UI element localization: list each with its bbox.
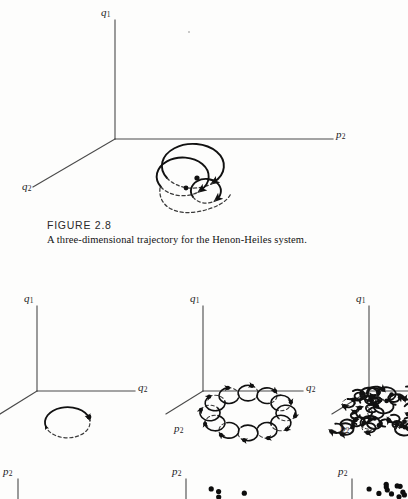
trajectory-node-dot	[342, 404, 347, 409]
trajectory-loop	[209, 395, 225, 401]
poincare-label-3: p2	[338, 465, 347, 478]
bottom-left-periodic-orbit	[45, 407, 91, 438]
br-axis-label-p2: p2	[340, 422, 349, 435]
trajectory-node-dot	[402, 419, 407, 424]
top-panel-axes	[33, 20, 333, 187]
poincare-label-2: p2	[172, 465, 181, 478]
trajectory-inner-dashed	[193, 197, 216, 203]
bottom-middle-quasiperiodic-torus	[199, 384, 297, 442]
trajectory-node-dot	[203, 422, 207, 426]
top-axis-label-p2: p2	[336, 128, 345, 141]
caption-title: FIGURE 2.8	[47, 219, 377, 232]
poincare-dot	[367, 486, 372, 491]
trajectory-node-dot	[329, 429, 334, 434]
trajectory-node-dot	[219, 433, 223, 437]
trajectory-node-dot	[266, 436, 270, 440]
trajectory-node-dot	[365, 430, 370, 435]
trajectory-node-dot	[387, 418, 392, 423]
trajectory-node-dot	[360, 391, 365, 396]
poincare-dot	[216, 495, 221, 499]
poincare-dot	[216, 489, 221, 494]
trajectory-node-dot	[250, 384, 254, 388]
trajectory-inner-solid	[191, 179, 221, 199]
trajectory-loop	[205, 397, 225, 411]
trajectory-node-dot	[242, 438, 246, 442]
poincare-axes	[18, 479, 352, 499]
trajectory-loop	[271, 415, 291, 429]
trajectory-node-dot	[184, 186, 189, 191]
orbit-solid-upper	[45, 407, 89, 427]
trajectory-loop	[271, 425, 287, 431]
bl-axis-p2	[0, 391, 37, 414]
scanned-textbook-page: q1 p2 q2 FIGURE 2.8 A three-dimensional …	[0, 0, 408, 499]
top-axis-q2	[33, 139, 115, 187]
trajectory-node-dot	[293, 414, 297, 418]
poincare-label-1: p2	[3, 465, 12, 478]
poincare-dot	[400, 490, 405, 495]
trajectory-node-dot	[358, 405, 363, 410]
orbit-node-dot	[87, 415, 92, 420]
bl-axis-label-q1: q1	[24, 292, 33, 305]
bm-axis-label-q2: q2	[306, 381, 315, 394]
trajectory-loop	[257, 388, 275, 404]
figure-caption: FIGURE 2.8 A three-dimensional trajector…	[47, 219, 377, 247]
bottom-middle-panel-axes	[166, 306, 303, 414]
poincare-dot	[396, 494, 401, 499]
bm-axis-label-q1: q1	[190, 292, 199, 305]
trajectory-node-dot	[402, 397, 407, 402]
trajectory-node-dot	[199, 408, 203, 412]
poincare-section-dots	[209, 482, 407, 499]
poincare-dot	[384, 482, 389, 487]
trajectory-node-dot	[273, 389, 277, 393]
trajectory-node-dot	[226, 386, 230, 390]
top-axis-label-q2: q2	[22, 180, 31, 193]
trajectory-loop	[221, 423, 239, 439]
top-axis-label-q1: q1	[101, 6, 110, 19]
trajectory-node-dot	[289, 400, 293, 404]
trajectory-node-dot	[389, 392, 394, 397]
poincare-dot	[242, 491, 247, 496]
poincare-dot	[389, 491, 394, 496]
bl-axis-label-q2: q2	[138, 381, 147, 394]
br-axis-label-q1: q1	[356, 292, 365, 305]
trajectory-node-dot	[207, 395, 211, 399]
trajectory-node-dot	[399, 424, 404, 429]
top-panel-trajectory	[157, 144, 231, 213]
scan-speck	[188, 31, 190, 33]
bm-axis-p2	[166, 391, 203, 414]
bottom-left-panel-axes	[0, 306, 135, 414]
trajectory-node-dot	[369, 401, 374, 406]
trajectory-node-dot	[285, 427, 289, 431]
trajectory-outer-solid	[162, 144, 224, 182]
orbit-dashed-lower	[46, 418, 90, 438]
trajectory-node-dot	[377, 423, 382, 428]
poincare-dot	[376, 491, 381, 496]
bm-axis-label-p2: p2	[174, 422, 183, 435]
poincare-dot	[395, 483, 400, 488]
trajectory-node-dot	[194, 175, 199, 180]
caption-text: A three-dimensional trajectory for the H…	[47, 233, 377, 247]
poincare-dot	[209, 486, 214, 491]
